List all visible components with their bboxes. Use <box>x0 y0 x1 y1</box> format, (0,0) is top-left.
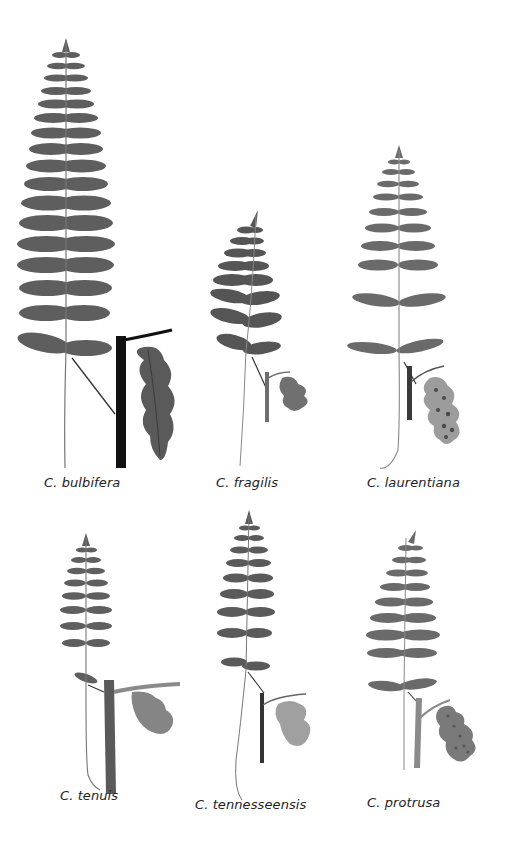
fern-frond-illustration <box>340 0 519 500</box>
fern-frond-illustration <box>0 0 190 500</box>
species-label: C. bulbifera <box>44 475 120 490</box>
species-label: C. laurentiana <box>367 475 460 490</box>
panel-c-tennesseensis: C. tennesseensis <box>190 500 340 858</box>
fern-frond-illustration <box>190 0 340 500</box>
species-label: C. tennesseensis <box>195 797 306 812</box>
species-label: C. protrusa <box>367 795 440 810</box>
panel-c-protrusa: C. protrusa <box>340 500 519 858</box>
panel-c-bulbifera: C. bulbifera <box>0 0 190 500</box>
species-label: C. tenuis <box>60 788 118 803</box>
fern-frond-illustration <box>0 500 190 858</box>
panel-c-tenuis: C. tenuis <box>0 500 190 858</box>
panel-c-fragilis: C. fragilis <box>190 0 340 500</box>
species-label: C. fragilis <box>216 475 278 490</box>
panel-c-laurentiana: C. laurentiana <box>340 0 519 500</box>
